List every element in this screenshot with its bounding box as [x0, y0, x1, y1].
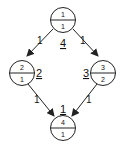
edge-weight: 1 — [34, 94, 40, 105]
edge-weight: 1 — [37, 35, 43, 46]
node-top-value: 1 — [61, 11, 65, 18]
node-label: 3 — [83, 67, 89, 79]
node-left: 2 1 2 — [10, 61, 43, 86]
edge-right-bottom: 1 — [72, 84, 97, 116]
graph-diagram: 1 1 1 1 1 1 4 2 1 2 3 2 3 4 1 — [0, 0, 126, 150]
node-top: 1 1 4 — [51, 8, 76, 50]
node-label: 2 — [36, 67, 42, 79]
node-bottom-value: 1 — [20, 76, 24, 83]
node-top-value: 2 — [20, 64, 24, 71]
edge-weight: 1 — [86, 94, 92, 105]
node-top-value: 4 — [61, 119, 65, 126]
edge-top-left: 1 — [27, 29, 53, 56]
node-top-value: 3 — [101, 64, 105, 71]
node-bottom: 4 1 1 — [51, 103, 76, 141]
node-bottom-value: 2 — [101, 76, 105, 83]
node-bottom-value: 1 — [61, 23, 65, 30]
node-bottom-value: 1 — [61, 131, 65, 138]
node-label: 1 — [60, 103, 66, 115]
node-label: 4 — [60, 37, 66, 49]
node-right: 3 2 3 — [83, 61, 116, 86]
edge-weight: 1 — [80, 35, 86, 46]
edge-top-right: 1 — [73, 29, 98, 56]
edge-left-bottom: 1 — [28, 84, 54, 116]
